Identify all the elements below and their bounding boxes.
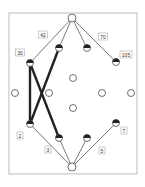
node-m3 [46,90,53,97]
node-top [68,14,76,22]
svg-text:5: 5 [101,148,104,154]
svg-text:70: 70 [100,34,106,40]
label-2: 2 [17,132,23,139]
svg-text:2: 2 [19,133,22,139]
label-5: 5 [99,147,105,154]
label-42: 42 [39,31,48,38]
edge-n42-n2 [30,48,59,124]
svg-text:3: 3 [47,147,50,153]
node-n70 [84,45,91,52]
label-3: 3 [45,146,51,153]
edge-n30-n3 [30,63,59,138]
node-n5 [84,135,91,142]
node-m2 [12,90,19,97]
svg-text:30: 30 [17,50,23,56]
node-n2 [27,121,34,128]
diagram-frame [9,13,137,174]
node-n30 [27,60,34,67]
edge-bottom-n5 [72,138,87,167]
node-n7 [113,120,120,127]
node-m5 [128,90,135,97]
node-n105 [113,59,120,66]
edge-bottom-n7 [72,123,116,167]
edge-top-n70 [72,18,87,48]
label-70: 70 [99,33,108,40]
label-105: 105 [120,51,132,58]
node-m1 [70,75,77,82]
svg-text:7: 7 [123,128,126,134]
node-m6 [70,105,77,112]
svg-text:105: 105 [122,52,131,58]
edge-top-n105 [72,18,116,62]
edge-top-n42 [59,18,72,48]
svg-text:42: 42 [40,32,46,38]
edge-top-n30 [30,18,72,63]
node-n3 [56,135,63,142]
lattice-diagram: 3042701052357 [0,0,145,187]
labels-layer: 3042701052357 [16,31,133,154]
diagram-canvas: 3042701052357 [0,0,145,187]
edge-bottom-n3 [59,138,72,167]
node-m4 [99,90,106,97]
node-n42 [56,45,63,52]
node-bottom [68,163,76,171]
label-7: 7 [121,127,127,134]
label-30: 30 [16,49,25,56]
edge-bottom-n2 [30,124,72,167]
